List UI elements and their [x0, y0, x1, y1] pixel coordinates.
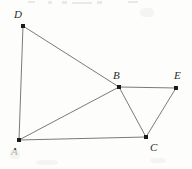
vertex-label-b: B — [113, 70, 120, 81]
scan-smudge-0 — [10, 150, 20, 159]
vertex-dot-b — [117, 85, 121, 89]
figure-canvas — [0, 0, 192, 169]
edge-C-E — [146, 88, 176, 137]
scan-smudge-2 — [150, 158, 166, 163]
edge-layer — [19, 26, 176, 140]
edge-A-B — [19, 87, 119, 140]
vertex-dot-e — [174, 86, 178, 90]
geometry-figure: DABCE — [0, 0, 192, 169]
scan-artifact-3 — [72, 2, 92, 4]
scan-smudge-1 — [36, 160, 58, 165]
scan-artifact-1 — [48, 1, 52, 4]
edge-D-B — [23, 26, 119, 87]
vertex-dot-a — [17, 138, 21, 142]
scan-artifact-4 — [97, 1, 102, 4]
edge-A-C — [19, 137, 146, 140]
scan-artifact-0 — [28, 1, 35, 3]
scan-artifact-5 — [128, 1, 138, 3]
edge-D-A — [19, 26, 23, 140]
vertex-label-c: C — [150, 142, 157, 153]
edge-B-C — [119, 87, 146, 137]
vertex-dot-c — [144, 135, 148, 139]
scan-artifact-2 — [62, 1, 67, 4]
vertex-dot-d — [21, 24, 25, 28]
vertex-label-e: E — [174, 70, 181, 81]
vertex-label-d: D — [14, 9, 22, 20]
scan-smudge-3 — [140, 8, 154, 17]
edge-B-E — [119, 87, 176, 88]
